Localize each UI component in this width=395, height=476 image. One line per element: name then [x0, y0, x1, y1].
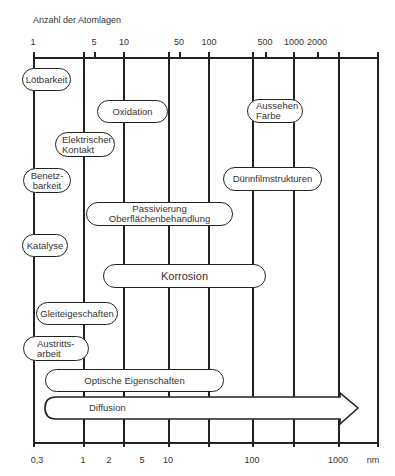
bottom-axis-unit: nm: [367, 455, 380, 465]
bottom-tick-label: 0,3: [31, 455, 44, 465]
bar-label-diffusion: Diffusion: [89, 402, 126, 413]
bottom-tick-label: 1: [80, 455, 85, 465]
bottom-tick-label: 100: [244, 455, 259, 465]
bottom-tick-label: 1000: [328, 455, 348, 465]
bottom-tick-label: 10: [163, 455, 173, 465]
diffusion-arrow-shape: [0, 0, 395, 476]
bottom-tick-label: 2: [106, 455, 111, 465]
bottom-tick-label: 5: [139, 455, 144, 465]
bottom-tick: [33, 438, 35, 447]
bottom-tick: [377, 438, 379, 447]
